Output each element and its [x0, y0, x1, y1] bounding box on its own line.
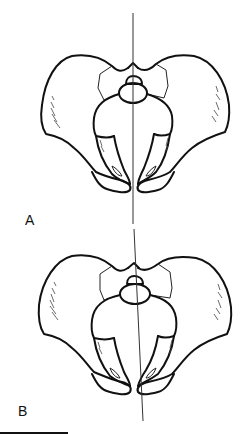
pelvis-figure: [0, 0, 248, 434]
panel-label-b: B: [18, 404, 27, 418]
pelvis-b: [39, 255, 232, 394]
panel-label-a: A: [25, 213, 34, 227]
pelvis-a: [41, 55, 229, 192]
